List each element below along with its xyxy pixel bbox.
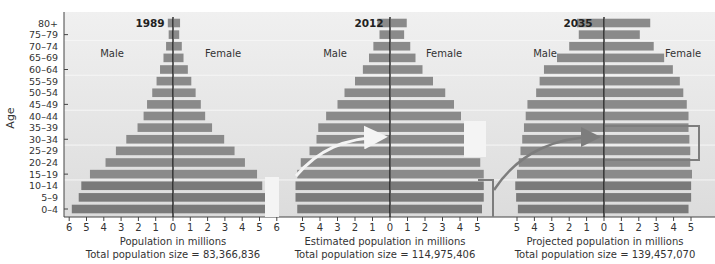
bar-female-50–54 <box>605 88 683 97</box>
bar-female-65–69 <box>605 54 664 63</box>
x-tick-label: 3 <box>439 222 445 233</box>
bar-female-55–59 <box>605 77 680 86</box>
y-tick-label: 25–29 <box>29 145 58 156</box>
bar-female-15–19 <box>174 170 257 179</box>
bar-male-45–49 <box>527 100 604 109</box>
x-axis-label: Estimated population in millions <box>305 236 466 247</box>
female-label: Female <box>205 48 241 59</box>
x-tick-label: 4 <box>531 222 537 233</box>
total-population-label: Total population size = 83,366,836 <box>85 249 260 260</box>
bar-female-30–34 <box>391 135 472 144</box>
bar-male-5–9 <box>79 193 173 202</box>
x-tick-label: 2 <box>204 222 210 233</box>
x-tick-label: 3 <box>549 222 555 233</box>
bar-female-10–14 <box>605 181 691 190</box>
bar-female-70–74 <box>605 42 654 51</box>
bar-female-65–69 <box>174 54 184 63</box>
bar-female-0–4 <box>174 205 269 214</box>
bar-male-0–4 <box>518 205 604 214</box>
x-tick-label: 2 <box>636 222 642 233</box>
x-tick-label: 4 <box>670 222 676 233</box>
y-axis-label: Age <box>4 107 17 129</box>
bar-female-45–49 <box>174 100 201 109</box>
bar-female-35–39 <box>391 123 468 132</box>
bar-male-5–9 <box>296 193 391 202</box>
female-label: Female <box>426 48 462 59</box>
bar-male-35–39 <box>138 123 173 132</box>
bar-female-5–9 <box>174 193 266 202</box>
x-tick-label: 1 <box>618 222 624 233</box>
bar-female-80+ <box>605 19 650 28</box>
y-tick-label: 65–69 <box>29 52 58 63</box>
population-pyramids-figure: 1989MaleFemale6543210123456Population in… <box>0 0 715 264</box>
bar-male-0–4 <box>297 205 390 214</box>
bar-male-40–44 <box>326 112 390 121</box>
bar-female-50–54 <box>391 88 445 97</box>
bar-male-5–9 <box>516 193 604 202</box>
bar-male-65–69 <box>369 54 390 63</box>
bar-female-25–29 <box>605 147 690 156</box>
bar-male-35–39 <box>524 123 604 132</box>
bar-male-70–74 <box>373 42 390 51</box>
x-tick-label: 3 <box>118 222 124 233</box>
bar-female-35–39 <box>174 123 212 132</box>
x-tick-label: 1 <box>369 222 375 233</box>
bar-male-50–54 <box>152 88 173 97</box>
bar-female-65–69 <box>391 54 416 63</box>
bar-male-10–14 <box>81 181 173 190</box>
x-tick-label: 6 <box>66 222 72 233</box>
bar-male-60–64 <box>363 65 390 74</box>
bar-female-60–64 <box>391 65 423 74</box>
y-tick-label: 40–44 <box>29 111 58 122</box>
panel-title: 2012 <box>354 17 383 29</box>
y-tick-label: 5–9 <box>41 192 58 203</box>
bar-female-70–74 <box>174 42 182 51</box>
male-label: Male <box>533 48 557 59</box>
y-tick-label: 75–79 <box>29 29 58 40</box>
y-tick-label: 70–74 <box>29 41 58 52</box>
bar-female-70–74 <box>391 42 410 51</box>
bar-male-65–69 <box>557 54 604 63</box>
bar-female-80+ <box>391 19 407 28</box>
bar-female-60–64 <box>174 65 188 74</box>
x-tick-label: 4 <box>239 222 245 233</box>
bar-male-40–44 <box>526 112 604 121</box>
bar-male-75–79 <box>380 30 391 39</box>
x-tick-label: 0 <box>170 222 176 233</box>
bar-male-80+ <box>168 19 173 28</box>
x-tick-label: 4 <box>457 222 463 233</box>
x-tick-label: 3 <box>222 222 228 233</box>
bar-female-15–19 <box>605 170 692 179</box>
y-tick-label: 15–19 <box>29 169 58 180</box>
bar-female-45–49 <box>391 100 454 109</box>
x-tick-label: 5 <box>83 222 89 233</box>
x-tick-label: 0 <box>387 222 393 233</box>
bar-male-45–49 <box>338 100 391 109</box>
bar-female-25–29 <box>391 147 475 156</box>
bar-female-0–4 <box>605 205 689 214</box>
bar-female-5–9 <box>391 193 484 202</box>
bar-female-75–79 <box>391 30 404 39</box>
bar-male-10–14 <box>515 181 604 190</box>
x-tick-label: 2 <box>352 222 358 233</box>
chart-canvas: 1989MaleFemale6543210123456Population in… <box>0 0 715 264</box>
x-tick-label: 2 <box>566 222 572 233</box>
x-tick-label: 1 <box>583 222 589 233</box>
x-axis-label: Projected population in millions <box>526 236 683 247</box>
x-tick-label: 5 <box>299 222 305 233</box>
bar-female-75–79 <box>174 30 179 39</box>
x-tick-label: 5 <box>514 222 520 233</box>
x-tick-label: 3 <box>653 222 659 233</box>
bar-female-0–4 <box>391 205 482 214</box>
x-tick-label: 2 <box>135 222 141 233</box>
y-tick-label: 55–59 <box>29 76 58 87</box>
y-tick-label: 80+ <box>38 18 58 29</box>
bar-male-60–64 <box>160 65 173 74</box>
bar-female-55–59 <box>174 77 191 86</box>
bar-male-0–4 <box>72 205 173 214</box>
bar-female-30–34 <box>605 135 689 144</box>
bar-male-40–44 <box>144 112 173 121</box>
bar-male-55–59 <box>355 77 390 86</box>
bar-female-35–39 <box>605 123 689 132</box>
bar-male-70–74 <box>166 42 173 51</box>
